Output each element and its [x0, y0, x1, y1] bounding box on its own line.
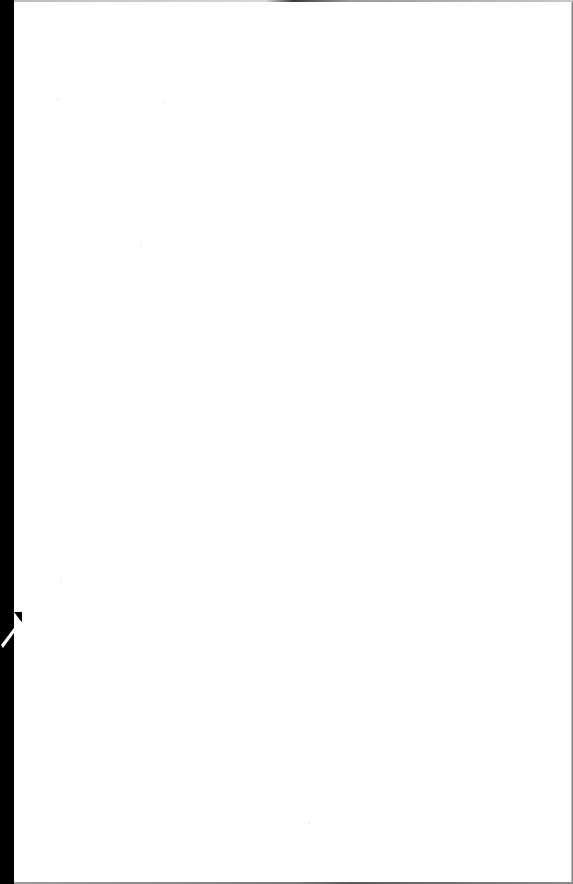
- scan-speck: [140, 245, 142, 247]
- scan-speck: [57, 98, 59, 100]
- blank-page: [14, 2, 571, 882]
- scan-speck: [60, 581, 62, 583]
- scan-border-top: [14, 0, 573, 2]
- scanned-document: [0, 0, 573, 884]
- scan-speck: [308, 822, 310, 824]
- scan-speck: [163, 101, 165, 103]
- page-corner-fold-artifact: [0, 612, 22, 652]
- scan-border-left: [0, 0, 14, 884]
